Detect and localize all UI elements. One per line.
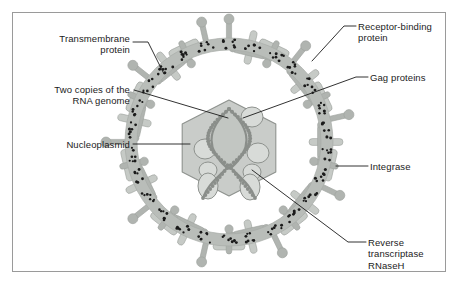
nucleocapsid-bump: [218, 175, 222, 179]
gag-protein-dot: [153, 199, 155, 201]
gag-protein-dot: [252, 239, 255, 242]
receptor-binding-head: [196, 16, 208, 28]
gag-protein-dot: [224, 47, 227, 50]
gag-protein-dot: [278, 59, 281, 62]
gag-protein-dot: [322, 179, 325, 182]
gag-protein-dot: [133, 113, 136, 116]
gag-protein-dot: [132, 149, 135, 152]
gag-protein-dot: [253, 44, 256, 47]
gag-protein-dot: [138, 168, 141, 171]
gag-protein-dot: [272, 56, 274, 58]
gag-protein-dot: [320, 175, 323, 178]
gag-protein-dot: [231, 240, 234, 243]
gag-protein-dot: [235, 241, 238, 244]
gag-protein-dot: [273, 226, 276, 229]
gag-protein-dot: [134, 160, 137, 163]
gag-protein-dot: [146, 193, 149, 196]
gag-protein-dot: [181, 53, 184, 56]
gag-protein-dot: [245, 235, 248, 238]
gag-protein-dot: [129, 160, 131, 162]
label-gag-proteins: Gag proteins: [370, 72, 458, 83]
gag-protein-dot: [269, 233, 272, 236]
gag-protein-dot: [134, 172, 137, 175]
gag-protein-dot: [294, 73, 296, 75]
gag-protein-dot: [316, 180, 319, 183]
gag-protein-dot: [303, 84, 306, 87]
gag-protein-dot: [204, 49, 207, 52]
gag-protein-dot: [323, 158, 326, 161]
gag-protein-dot: [186, 225, 189, 228]
gag-protein-dot: [209, 242, 211, 244]
gag-protein-dot: [245, 241, 248, 244]
gag-protein-dot: [197, 235, 200, 238]
gag-protein-dot: [176, 226, 179, 229]
gag-protein-dot: [165, 212, 168, 215]
gag-protein-dot: [128, 127, 131, 130]
gag-protein-dot: [187, 228, 190, 231]
gag-protein-dot: [186, 53, 188, 55]
nucleocapsid-bump: [239, 178, 243, 182]
gag-protein-dot: [163, 219, 166, 222]
nucleocapsid-bump: [206, 190, 210, 194]
gag-protein-dot: [323, 129, 326, 132]
gag-protein-dot: [198, 50, 201, 53]
gag-protein-dot: [149, 198, 151, 200]
gag-protein-dot: [143, 194, 145, 196]
gag-protein-dot: [282, 54, 285, 57]
gag-protein-dot: [314, 177, 317, 180]
gag-protein-dot: [129, 130, 132, 133]
nucleocapsid-bump: [232, 169, 236, 173]
gag-protein-dot: [247, 44, 250, 47]
nucleocapsid-bump: [213, 181, 217, 185]
gag-protein-dot: [323, 173, 326, 176]
receptor-binding-head: [196, 256, 208, 268]
nucleocapsid-bump: [236, 175, 240, 179]
gag-protein-dot: [158, 208, 161, 211]
gag-protein-dot: [267, 231, 269, 233]
gag-protein-dot: [322, 121, 325, 124]
gag-protein-dot: [292, 61, 295, 64]
nucleocapsid-bump: [244, 184, 248, 188]
nucleocapsid-bump: [219, 158, 223, 162]
nucleocapsid-bump: [208, 187, 212, 191]
gag-protein-dot: [162, 210, 164, 212]
gag-protein-dot: [130, 121, 132, 123]
nucleocapsid-bump: [230, 110, 234, 114]
gag-protein-dot: [200, 231, 203, 234]
gag-protein-dot: [275, 56, 278, 59]
gag-protein-dot: [321, 148, 323, 150]
gag-protein-dot: [146, 90, 149, 93]
gag-protein-dot: [305, 200, 307, 202]
gag-protein-dot: [318, 112, 320, 114]
gag-protein-dot: [318, 107, 321, 110]
gag-protein-dot: [320, 102, 322, 104]
nucleocapsid-bump: [201, 196, 205, 200]
nucleocapsid-bump: [232, 161, 236, 165]
gag-protein-dot: [288, 221, 291, 224]
label-integrase: Integrase: [370, 161, 458, 172]
gag-protein-dot: [253, 50, 255, 52]
nucleocapsid-bump: [227, 107, 231, 111]
gag-protein-dot: [164, 68, 167, 71]
gag-protein-dot: [157, 73, 160, 76]
gag-protein-dot: [324, 168, 327, 171]
gag-protein-dot: [287, 215, 290, 218]
protein-circle: [247, 143, 269, 163]
gag-protein-dot: [326, 149, 328, 151]
gag-protein-dot: [323, 110, 326, 113]
gag-protein-dot: [298, 208, 301, 211]
label-reverse-transcriptase-rnaseh: Reverse transcriptase RNaseH: [368, 237, 458, 271]
nucleocapsid-bump: [222, 161, 226, 165]
figure-canvas: Transmembrane proteinTwo copies of the R…: [0, 0, 459, 299]
nucleocapsid-bump: [216, 178, 220, 182]
gag-protein-dot: [280, 224, 283, 227]
gag-protein-dot: [131, 128, 134, 131]
nucleocapsid-bump: [211, 184, 215, 188]
gag-protein-dot: [141, 192, 144, 195]
gag-protein-dot: [212, 46, 214, 48]
gag-protein-dot: [138, 99, 141, 102]
gag-protein-dot: [327, 152, 329, 154]
gag-protein-dot: [325, 135, 328, 138]
gag-protein-dot: [246, 233, 248, 235]
nucleocapsid-bump: [253, 196, 257, 200]
